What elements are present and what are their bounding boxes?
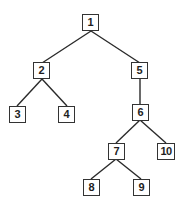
edge-1-5 [91, 31, 140, 63]
tree-node-10: 10 [157, 143, 175, 160]
tree-node-9: 9 [133, 179, 150, 196]
edge-6-7 [116, 120, 140, 143]
tree-node-2: 2 [33, 62, 50, 79]
edge-7-9 [116, 159, 141, 179]
tree-node-4: 4 [58, 106, 75, 123]
tree-node-7: 7 [108, 143, 125, 160]
tree-node-6: 6 [132, 104, 149, 121]
tree-node-3: 3 [9, 106, 26, 123]
edge-1-2 [42, 31, 91, 63]
edge-2-4 [42, 79, 67, 106]
edge-6-10 [140, 120, 166, 143]
tree-edges [0, 0, 183, 208]
tree-node-8: 8 [83, 179, 100, 196]
edge-2-3 [17, 79, 42, 106]
edge-7-8 [91, 159, 116, 179]
tree-node-5: 5 [131, 62, 148, 79]
tree-node-1: 1 [82, 14, 99, 31]
